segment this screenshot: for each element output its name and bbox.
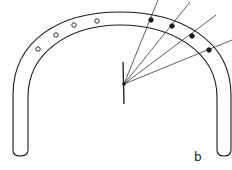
- open-circle-markers: [36, 19, 99, 51]
- filled-dot: [149, 18, 154, 23]
- filled-dot: [170, 24, 175, 29]
- center-point: [122, 82, 126, 86]
- open-circle: [36, 47, 40, 51]
- filled-dot: [207, 48, 212, 53]
- filled-dot: [190, 34, 195, 39]
- open-circle: [95, 19, 99, 23]
- inner-arch-line: [28, 25, 217, 150]
- figure-label: b: [194, 150, 202, 164]
- outer-arch-line: [13, 12, 231, 150]
- ray-line: [124, 2, 190, 84]
- open-circle: [54, 33, 58, 37]
- right-leg-end: [217, 150, 231, 156]
- left-leg-end: [13, 150, 28, 156]
- arch-diagram: [0, 0, 232, 170]
- ray-line: [124, 40, 232, 84]
- open-circle: [72, 23, 76, 27]
- arch: [13, 12, 231, 156]
